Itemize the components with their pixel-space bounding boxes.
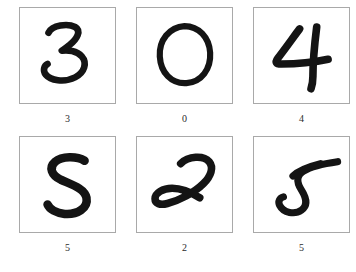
digit-grid: 3 0 4 [0,0,356,272]
digit-label: 3 [65,113,70,124]
digit-cell: 3 [9,7,126,136]
digit-cell: 5 [243,136,356,265]
digit-0-glyph [137,8,232,103]
digit-4-glyph [254,8,349,103]
digit-label: 0 [182,113,187,124]
digit-5-glyph [20,137,115,232]
digit-2-glyph [137,137,232,232]
digit-5-alt-glyph [254,137,349,232]
handwritten-digit-5-alt-image [253,136,350,233]
handwritten-digit-2-image [136,136,233,233]
digit-label: 2 [182,242,187,253]
handwritten-digit-3-image [19,7,116,104]
digit-3-glyph [20,8,115,103]
handwritten-digit-5-image [19,136,116,233]
digit-label: 4 [299,113,304,124]
digit-sample-figure: 3 0 4 [0,0,356,272]
digit-cell: 4 [243,7,356,136]
digit-cell: 0 [126,7,243,136]
handwritten-digit-0-image [136,7,233,104]
handwritten-digit-4-image [253,7,350,104]
digit-cell: 2 [126,136,243,265]
digit-label: 5 [65,242,70,253]
digit-label: 5 [299,242,304,253]
digit-cell: 5 [9,136,126,265]
